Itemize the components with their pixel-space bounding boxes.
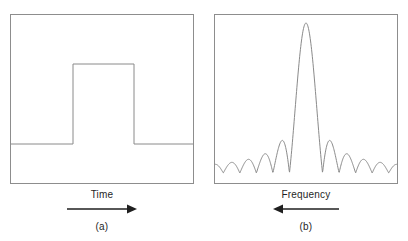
sinc-magnitude-plot [215, 15, 397, 183]
plot-box-frequency-domain [214, 14, 398, 184]
panel-letter-b: (b) [204, 221, 408, 233]
rectangular-pulse-plot [11, 15, 193, 183]
arrow-right-icon [67, 203, 137, 215]
sinc-magnitude-waveform [215, 23, 397, 173]
panel-time-domain: Time (a) [0, 0, 204, 241]
panel-letter-a: (a) [0, 221, 204, 233]
arrow-left-icon [273, 203, 339, 215]
panel-frequency-domain: Frequency (b) [204, 0, 408, 241]
rectangular-pulse-waveform [11, 64, 193, 144]
arrow-left-container [204, 203, 408, 215]
figure-root: Time (a) Frequency (b) [0, 0, 408, 241]
plot-box-time-domain [10, 14, 194, 184]
arrow-right-container [0, 203, 204, 215]
axis-label-time: Time [0, 189, 204, 201]
axis-label-frequency: Frequency [204, 189, 408, 201]
